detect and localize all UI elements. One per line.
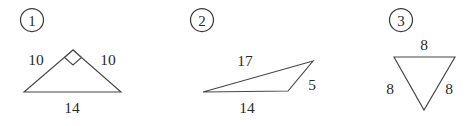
side-label-base: 14 [239, 99, 255, 116]
side-label-upper: 17 [237, 52, 253, 69]
side-label-left: 10 [28, 51, 44, 68]
figure-item-1: 1 10 10 14 [21, 9, 122, 117]
figure-item-2: 2 17 5 14 [191, 9, 317, 117]
side-label-right: 5 [308, 76, 316, 93]
side-label-right: 8 [445, 80, 453, 97]
index-badge-2: 2 [191, 9, 214, 32]
index-badge-1: 1 [21, 9, 44, 32]
figure-item-3: 3 8 8 8 [386, 9, 455, 111]
right-angle-marker-icon [65, 50, 82, 65]
side-label-base: 14 [64, 99, 80, 116]
side-label-top: 8 [420, 36, 428, 53]
figure-canvas: 1 10 10 14 2 17 5 14 3 [0, 0, 471, 126]
side-label-left: 8 [386, 80, 394, 97]
triangles-figure: 1 10 10 14 2 17 5 14 3 [0, 0, 471, 126]
index-number: 1 [28, 13, 36, 29]
triangle-outline [203, 61, 313, 92]
index-badge-3: 3 [390, 9, 413, 32]
index-number: 2 [198, 13, 206, 29]
side-label-right: 10 [100, 51, 116, 68]
index-number: 3 [397, 13, 405, 29]
